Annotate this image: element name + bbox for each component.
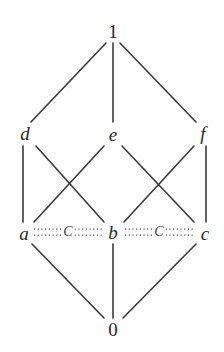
node-label-top: 1 xyxy=(108,22,118,41)
edge-top-d xyxy=(31,43,106,122)
diagram-canvas xyxy=(0,0,224,352)
edge-top-f xyxy=(120,43,196,122)
solid-edges xyxy=(23,43,206,318)
hasse-diagram-figure: 1 d e f a b c 0 C C xyxy=(0,0,224,352)
edge-c-bottom xyxy=(123,244,196,318)
node-label-c: c xyxy=(201,224,209,243)
congruence-label-left: C xyxy=(61,225,74,239)
node-label-f: f xyxy=(200,124,205,143)
node-label-a: a xyxy=(19,224,29,243)
node-label-bottom: 0 xyxy=(108,320,118,339)
node-label-b: b xyxy=(108,223,118,242)
edge-a-bottom xyxy=(32,244,104,318)
congruence-label-right: C xyxy=(152,225,165,239)
node-label-e: e xyxy=(109,125,117,144)
node-label-d: d xyxy=(20,124,30,143)
